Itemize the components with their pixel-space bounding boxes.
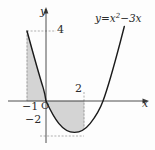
- x-axis-label: x: [142, 98, 148, 109]
- y-tick-label-minus2: −2: [25, 114, 41, 125]
- origin-label: O: [41, 101, 49, 111]
- x-tick-label-2: 2: [75, 83, 82, 94]
- equation-rest: −3x: [120, 12, 141, 24]
- y-tick-label-4: 4: [57, 24, 64, 35]
- y-axis-label: y: [40, 6, 46, 17]
- equation-label: y=x2−3x: [95, 13, 142, 24]
- graph-figure: y x O 4 2 −1 −2 y=x2−3x: [0, 0, 155, 150]
- shaded-region-right: [46, 101, 84, 132]
- equation-equals: =: [101, 12, 110, 24]
- x-tick-label-minus1: −1: [22, 101, 38, 112]
